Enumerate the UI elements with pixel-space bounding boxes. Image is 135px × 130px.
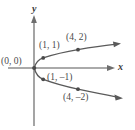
point-marker-4-2 xyxy=(76,48,80,52)
point-marker-4-neg2 xyxy=(76,87,80,91)
y-axis-arrowhead xyxy=(31,15,37,23)
point-marker-origin xyxy=(32,66,36,70)
point-label-1-1: (1, 1) xyxy=(39,41,60,51)
parabola-upper-arrowhead xyxy=(113,41,121,47)
x-axis-label: x xyxy=(118,62,123,72)
parabola-lower-arrowhead xyxy=(114,95,123,101)
y-axis-label: y xyxy=(32,4,36,14)
point-label-4-2: (4, 2) xyxy=(66,33,87,43)
point-marker-1-1 xyxy=(41,56,45,60)
parabola-figure: y x (0, 0) (1, 1) (4, 2) (1, –1) (4, –2) xyxy=(0,0,135,130)
point-label-1-neg1: (1, –1) xyxy=(47,73,72,83)
point-marker-1-neg1 xyxy=(41,77,45,81)
x-axis-arrowhead xyxy=(107,65,115,71)
point-label-origin: (0, 0) xyxy=(1,57,22,67)
point-label-4-neg2: (4, –2) xyxy=(63,93,88,103)
